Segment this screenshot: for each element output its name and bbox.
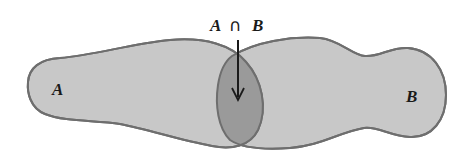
intersection-label-a: A [209, 16, 221, 35]
set-b-label: B [405, 87, 417, 106]
intersection-operator: ∩ [229, 15, 241, 35]
venn-diagram-svg: A ∩ B A B [0, 0, 475, 154]
venn-diagram: A ∩ B A B [0, 0, 475, 154]
intersection-label-b: B [251, 16, 263, 35]
set-a-label: A [51, 80, 63, 99]
